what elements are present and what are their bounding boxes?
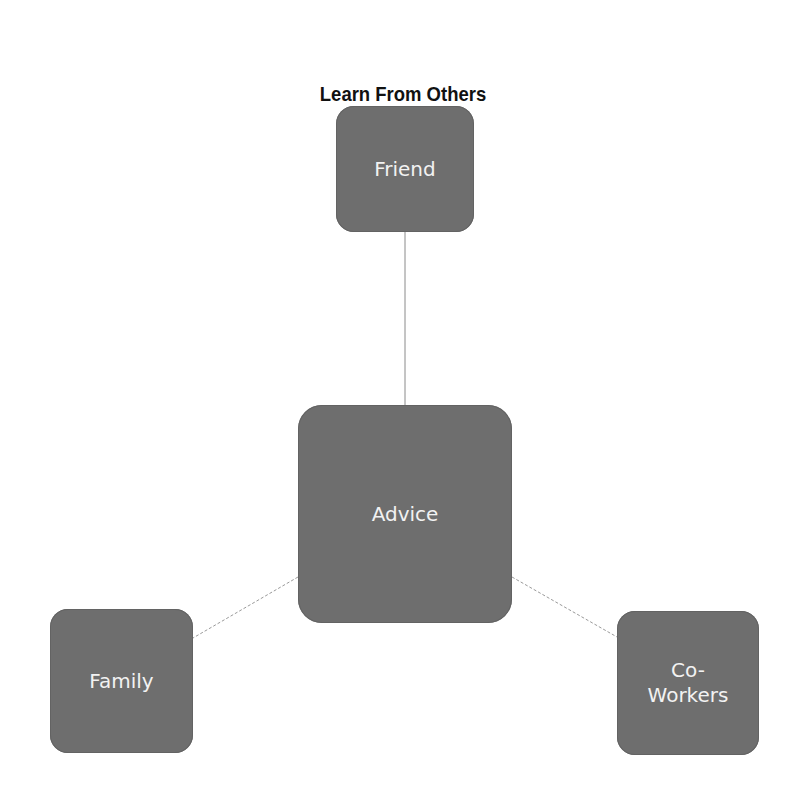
node-friend: Friend bbox=[336, 106, 474, 232]
node-label-advice: Advice bbox=[372, 502, 439, 527]
node-advice: Advice bbox=[298, 405, 512, 623]
edge-advice-coworkers bbox=[512, 577, 617, 637]
node-label-coworkers: Co- Workers bbox=[648, 658, 729, 708]
node-family: Family bbox=[50, 609, 193, 753]
edge-advice-family bbox=[193, 577, 298, 638]
node-label-friend: Friend bbox=[374, 157, 436, 182]
node-coworkers: Co- Workers bbox=[617, 611, 759, 755]
node-label-family: Family bbox=[89, 669, 153, 694]
